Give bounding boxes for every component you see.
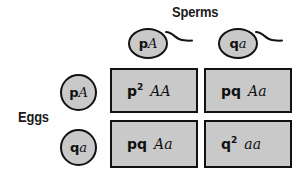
egg-gamete-pa-label: pA [69,86,88,99]
sperm-gamete-pa-label: pA [139,37,158,50]
punnett-cell-aa-homozygous-dominant: p2AA [110,68,198,113]
frequency-term: p [127,83,137,99]
frequency-term: pq [127,136,147,152]
genotype-term: AA [150,83,170,99]
punnett-cell-aa-heterozygous-top: pqAa [204,68,292,113]
allele-symbol: A [148,36,157,51]
frequency-symbol: p [139,36,148,51]
sperm-tail-icon [166,30,192,44]
allele-symbol: a [79,140,87,155]
frequency-symbol: q [70,140,79,155]
sperm-gamete-qa-label: qa [229,37,246,50]
genotype-term: Aa [248,83,266,99]
punnett-grid: p2AA pqAa pqAa q2aa [110,68,292,168]
sperm-gamete-pa: pA [128,28,168,59]
eggs-axis-label: Eggs [18,108,49,125]
allele-symbol: a [239,36,247,51]
sperm-gamete-qa: qa [218,28,258,59]
sperm-tail-icon [256,30,282,44]
frequency-term: q [221,136,231,152]
punnett-cell-text: p2AA [127,84,171,98]
allele-symbol: A [78,85,87,100]
frequency-symbol: q [229,36,238,51]
genotype-term: Aa [154,136,172,152]
punnett-cell-text: pqAa [127,137,173,151]
punnett-cell-aa-homozygous-recessive: q2aa [204,120,292,168]
frequency-exponent: 2 [231,135,237,145]
punnett-cell-text: pqAa [221,84,267,98]
frequency-exponent: 2 [137,82,143,92]
punnett-cell-aa-heterozygous-bottom: pqAa [110,120,198,168]
egg-gamete-qa: qa [60,129,97,166]
frequency-term: pq [221,83,241,99]
punnett-square-diagram: Sperms Eggs pA qa pA qa p2AA pqAa pqAa q… [0,0,302,182]
genotype-term: aa [244,136,261,152]
punnett-cell-text: q2aa [221,137,261,151]
egg-gamete-qa-label: qa [70,141,87,154]
egg-gamete-pa: pA [60,74,97,111]
sperms-axis-label: Sperms [172,3,218,20]
